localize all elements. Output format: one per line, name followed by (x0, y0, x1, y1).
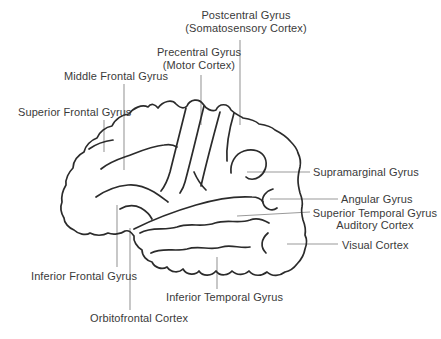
label-supramarginal-gyrus: Supramarginal Gyrus (313, 166, 419, 179)
label-postcentral-gyrus: Postcentral Gyrus (Somatosensory Cortex) (185, 9, 306, 35)
label-superior-frontal-gyrus: Superior Frontal Gyrus (18, 106, 131, 119)
supramarginal-gyrus-curve (231, 150, 266, 179)
label-precentral-line1: Precentral Gyrus (157, 46, 241, 59)
brain-outline-group (61, 100, 307, 275)
label-inferior-temporal-gyrus: Inferior Temporal Gyrus (166, 291, 283, 304)
label-postcentral-line2: (Somatosensory Cortex) (185, 22, 306, 35)
superior-frontal-sulcus-line (101, 145, 177, 169)
label-angular-gyrus: Angular Gyrus (341, 193, 413, 206)
label-superior-temporal-gyrus: Superior Temporal Gyrus Auditory Cortex (312, 207, 438, 231)
label-precentral-line2: (Motor Cortex) (157, 59, 241, 72)
label-postcentral-line1: Postcentral Gyrus (185, 9, 306, 22)
brain-diagram: Postcentral Gyrus (Somatosensory Cortex)… (0, 0, 441, 339)
label-superior-temporal-line1: Superior Temporal Gyrus (312, 207, 438, 219)
label-middle-frontal-gyrus: Middle Frontal Gyrus (64, 70, 168, 83)
middle-temporal-sulcus-line (151, 246, 250, 253)
opercular-sulcus-line (120, 206, 152, 219)
label-precentral-gyrus: Precentral Gyrus (Motor Cortex) (157, 46, 241, 72)
precentral-sulcus-line (161, 108, 186, 191)
label-inferior-frontal-gyrus: Inferior Frontal Gyrus (31, 270, 137, 283)
label-visual-cortex: Visual Cortex (342, 239, 409, 252)
parietal-sulcus-line (227, 113, 234, 161)
label-orbitofrontal-cortex: Orbitofrontal Cortex (90, 312, 188, 325)
label-superior-temporal-line2: Auditory Cortex (312, 219, 438, 231)
frontal-short-sulcus-line (89, 140, 113, 149)
lateral-fissure-line (134, 197, 263, 229)
leader-superior-temporal (237, 212, 310, 216)
occipital-sulcus-mark (262, 233, 268, 253)
postcentral-sulcus-line (201, 112, 220, 186)
superior-temporal-sulcus-line (140, 219, 269, 233)
inferior-frontal-sulcus-line (96, 185, 168, 202)
